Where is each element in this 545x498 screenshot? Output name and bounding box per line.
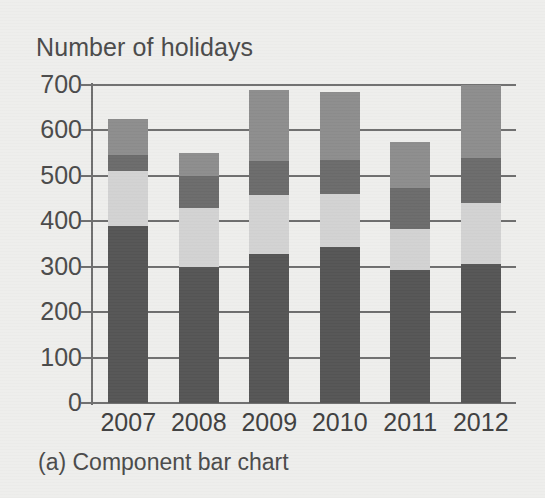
bar-segment (390, 229, 430, 270)
y-axis-tick-label: 300 (12, 254, 82, 279)
gridline (93, 402, 516, 404)
bar-segment (320, 194, 360, 247)
stacked-bar (390, 142, 430, 403)
y-axis-tick (81, 84, 93, 86)
plot-area (93, 85, 516, 403)
y-axis-tick (81, 129, 93, 131)
gridline (93, 220, 516, 222)
bar-segment (179, 153, 219, 176)
bar-segment (461, 264, 501, 403)
x-axis-tick-label: 2007 (93, 409, 164, 435)
y-axis-tick (81, 311, 93, 313)
y-axis-tick-label: 600 (12, 117, 82, 142)
y-axis-tick-label: 0 (12, 390, 82, 415)
gridline (93, 266, 516, 268)
gridline (93, 311, 516, 313)
bar-segment (108, 119, 148, 155)
stacked-bar (320, 92, 360, 403)
stacked-bar (108, 119, 148, 403)
y-axis-tick-label: 200 (12, 299, 82, 324)
y-axis-tick (81, 220, 93, 222)
y-axis-tick-label: 400 (12, 208, 82, 233)
stacked-bar (461, 85, 501, 403)
bar-segment (390, 142, 430, 188)
bar-segment (249, 254, 289, 403)
y-axis-tick (81, 357, 93, 359)
y-axis-tick-label: 500 (12, 163, 82, 188)
bar-segment (249, 90, 289, 161)
bar-segment (179, 176, 219, 208)
bar-segment (108, 226, 148, 403)
bar-segment (320, 247, 360, 403)
x-axis-tick-label: 2008 (164, 409, 235, 435)
bar-segment (320, 92, 360, 160)
bar-segment (390, 188, 430, 229)
gridline (93, 84, 516, 86)
bar-segment (320, 160, 360, 194)
bar-segment (108, 155, 148, 171)
y-axis-tick (81, 266, 93, 268)
bar-segment (461, 158, 501, 203)
figure-panel: Number of holidays 700600500400300200100… (0, 0, 545, 498)
chart-title: Number of holidays (36, 33, 253, 62)
x-axis-tick-labels: 200720082009201020112012 (93, 409, 516, 443)
x-axis-tick-label: 2012 (446, 409, 517, 435)
gridline (93, 175, 516, 177)
gridline (93, 357, 516, 359)
bar-segment (461, 85, 501, 158)
x-axis-tick-label: 2010 (305, 409, 376, 435)
stacked-bar (179, 153, 219, 403)
x-axis-tick-label: 2011 (375, 409, 446, 435)
y-axis-tick-labels: 7006005004003002001000 (10, 85, 82, 403)
bar-segment (249, 161, 289, 195)
bar-segment (179, 208, 219, 267)
x-axis-tick-label: 2009 (234, 409, 305, 435)
gridline (93, 129, 516, 131)
bar-segment (179, 267, 219, 403)
y-axis-tick-label: 700 (12, 72, 82, 97)
bar-segment (108, 171, 148, 226)
y-axis-tick (81, 175, 93, 177)
bar-segment (461, 203, 501, 264)
stacked-bar (249, 90, 289, 403)
bar-segment (390, 270, 430, 403)
y-axis-tick-label: 100 (12, 345, 82, 370)
y-axis-tick (81, 402, 93, 404)
bar-segment (249, 195, 289, 254)
figure-caption: (a) Component bar chart (38, 449, 289, 476)
